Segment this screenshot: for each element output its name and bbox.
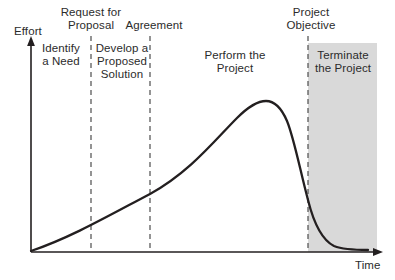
milestone-label-agreement: Agreement: [114, 19, 194, 32]
phase-label-perform-the-project: Perform the Project: [182, 49, 288, 75]
phase-label-terminate-the-project: Terminate the Project: [311, 49, 375, 75]
x-axis-label: Time: [355, 259, 381, 272]
phase-label-develop-a-proposed-solution: Develop a Proposed Solution: [93, 42, 151, 82]
milestone-label-project-objective: Project Objective: [266, 6, 356, 32]
project-life-cycle-figure: Effort Time Request for Proposal Agreeme…: [0, 0, 395, 280]
y-axis-label: Effort: [14, 25, 42, 38]
phase-label-identify-a-need: Identify a Need: [32, 42, 90, 68]
